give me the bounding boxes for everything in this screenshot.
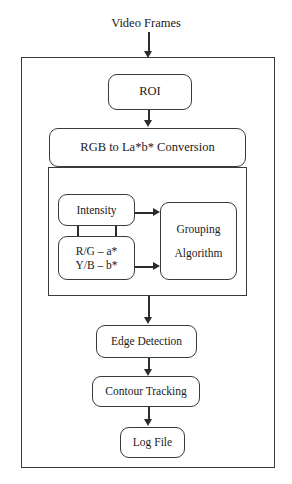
connector-intensity-to-chroma-right (115, 226, 117, 236)
node-edge-detection-label: Edge Detection (111, 334, 182, 348)
connector-grouping-to-edge (148, 296, 150, 318)
node-intensity[interactable]: Intensity (58, 194, 135, 226)
flowchart-diagram: Video Frames ROI RGB to La*b* Conversion… (0, 0, 292, 484)
node-chroma-line-2: Y/B – b* (75, 258, 117, 272)
arrowhead-video-frames (144, 51, 152, 58)
node-grouping-algorithm[interactable]: Grouping Algorithm (160, 202, 237, 280)
node-contour-tracking[interactable]: Contour Tracking (92, 376, 200, 407)
node-log-file[interactable]: Log File (120, 427, 185, 458)
video-frames-caption: Video Frames (0, 16, 292, 31)
node-chroma-channels[interactable]: R/G – a* Y/B – b* (58, 236, 135, 280)
node-roi-label: ROI (139, 84, 161, 99)
connector-video-frames-to-pipeline (148, 32, 150, 53)
arrowhead-grouping-to-edge (144, 317, 152, 324)
node-chroma-line-1: R/G – a* (76, 244, 118, 258)
arrowhead-chroma-to-grouping (153, 262, 160, 270)
connector-intensity-to-chroma-left (77, 226, 79, 236)
connector-chroma-to-grouping (135, 266, 154, 268)
node-roi[interactable]: ROI (108, 74, 192, 110)
arrowhead-edge-to-contour (144, 369, 152, 376)
arrowhead-contour-to-log (144, 419, 152, 426)
node-contour-tracking-label: Contour Tracking (105, 384, 186, 398)
node-grouping-line-1: Grouping (176, 222, 220, 236)
node-edge-detection[interactable]: Edge Detection (96, 325, 197, 358)
arrowhead-intensity-to-grouping (153, 208, 160, 216)
node-log-file-label: Log File (133, 435, 172, 449)
node-intensity-label: Intensity (76, 203, 116, 217)
node-rgb-conversion-label: RGB to La*b* Conversion (80, 140, 214, 155)
node-grouping-line-2: Algorithm (175, 246, 223, 260)
arrowhead-roi-to-rgb (144, 120, 152, 127)
node-rgb-conversion[interactable]: RGB to La*b* Conversion (49, 128, 246, 167)
connector-intensity-to-grouping (135, 212, 154, 214)
